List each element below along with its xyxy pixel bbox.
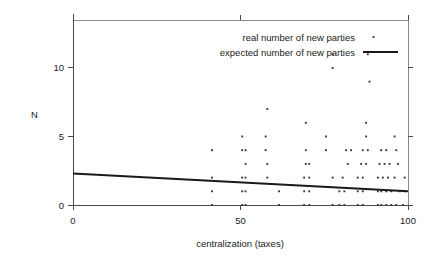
data-point (332, 204, 334, 206)
chart-figure: 0510050100 real number of new partiesexp… (0, 0, 433, 265)
data-point (384, 163, 386, 165)
data-point (241, 190, 243, 192)
x-tick-label: 100 (400, 215, 416, 226)
data-point (385, 204, 387, 206)
data-point (365, 163, 367, 165)
data-point (211, 204, 213, 206)
data-point (305, 122, 307, 124)
data-point (308, 204, 310, 206)
data-point (211, 149, 213, 151)
legend-label: expected number of new parties (220, 47, 355, 58)
data-point (343, 204, 345, 206)
data-point (395, 149, 397, 151)
data-point (211, 190, 213, 192)
data-point (308, 163, 310, 165)
data-point (303, 177, 305, 179)
x-tick-label: 0 (70, 215, 75, 226)
data-point (332, 177, 334, 179)
data-point (380, 204, 382, 206)
data-point (303, 190, 305, 192)
x-axis-label: centralization (taxes) (196, 238, 284, 249)
data-point (362, 190, 364, 192)
data-point (245, 204, 247, 206)
data-point (308, 190, 310, 192)
data-point (245, 149, 247, 151)
data-point (382, 177, 384, 179)
data-point (245, 163, 247, 165)
data-point (325, 136, 327, 138)
data-point (404, 177, 406, 179)
data-point (357, 190, 359, 192)
data-point (365, 122, 367, 124)
legend-marker-dot (373, 36, 375, 38)
data-point (245, 190, 247, 192)
x-tick-label: 50 (235, 215, 246, 226)
data-point (350, 149, 352, 151)
data-point (390, 204, 392, 206)
data-point (402, 204, 404, 206)
data-point (389, 163, 391, 165)
data-point (278, 190, 280, 192)
data-point (394, 177, 396, 179)
data-point (325, 149, 327, 151)
data-point (377, 177, 379, 179)
data-point (342, 177, 344, 179)
data-point (303, 204, 305, 206)
data-point (265, 136, 267, 138)
data-point (367, 53, 369, 55)
data-point (266, 163, 268, 165)
y-tick-label: 5 (59, 131, 64, 142)
data-point (278, 204, 280, 206)
axis-ticks (68, 15, 413, 210)
y-tick-label: 10 (53, 62, 64, 73)
data-point (308, 177, 310, 179)
data-point (362, 149, 364, 151)
data-point (266, 108, 268, 110)
data-point (362, 204, 364, 206)
data-point (241, 177, 243, 179)
data-point (380, 149, 382, 151)
data-point (305, 149, 307, 151)
data-point (241, 136, 243, 138)
data-point (357, 204, 359, 206)
y-axis-label: N (31, 109, 38, 120)
expected-trend-line (73, 173, 408, 191)
data-point (369, 81, 371, 83)
data-point (332, 67, 334, 69)
data-point (377, 204, 379, 206)
data-point (397, 163, 399, 165)
scatter-plot: 0510050100 real number of new partiesexp… (0, 0, 433, 265)
data-point (379, 163, 381, 165)
data-point (357, 177, 359, 179)
data-point (347, 163, 349, 165)
data-point (343, 190, 345, 192)
data-point (241, 204, 243, 206)
data-point (365, 136, 367, 138)
data-point (385, 149, 387, 151)
data-point (387, 177, 389, 179)
data-point (394, 136, 396, 138)
data-point (211, 177, 213, 179)
data-point (362, 177, 364, 179)
data-point (241, 149, 243, 151)
data-point (245, 177, 247, 179)
data-point (265, 149, 267, 151)
data-point (367, 149, 369, 151)
data-point (338, 204, 340, 206)
chart-legend: real number of new partiesexpected numbe… (220, 32, 398, 58)
data-point (305, 163, 307, 165)
data-point (345, 149, 347, 151)
y-tick-label: 0 (59, 200, 64, 211)
data-point (266, 177, 268, 179)
tick-labels-layer: 0510050100 (53, 62, 416, 226)
data-point (338, 190, 340, 192)
data-point (395, 204, 397, 206)
legend-label: real number of new parties (243, 32, 356, 43)
data-point (360, 163, 362, 165)
trend-line-layer (73, 173, 408, 191)
